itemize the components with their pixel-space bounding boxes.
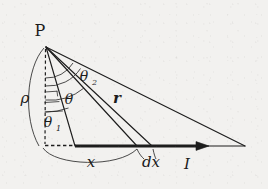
diagram-canvas: P ρ θ θ 1 θ 2 r x dx I <box>0 0 268 189</box>
ray-p-to-element-right <box>46 47 152 146</box>
label-theta-2-subscript: 2 <box>91 78 97 87</box>
label-theta-1: θ 1 <box>44 114 61 133</box>
tick-mark-middle <box>45 102 59 103</box>
tick-mark-upper <box>45 91 58 96</box>
label-current: I <box>183 155 191 173</box>
label-theta-2-base: θ <box>80 68 89 84</box>
label-r: r <box>113 89 122 107</box>
rho-measure-arc <box>29 48 44 146</box>
tick-mark-lower <box>45 111 63 112</box>
physics-diagram-figure: P ρ θ θ 1 θ 2 r x dx I <box>0 0 268 189</box>
label-dx: dx <box>142 153 161 171</box>
label-x: x <box>87 153 96 171</box>
angle-arc-inner <box>45 63 73 78</box>
label-point-p: P <box>35 21 46 40</box>
current-arrowhead <box>196 142 209 151</box>
label-theta-1-subscript: 1 <box>56 124 61 133</box>
angle-arc-theta-2 <box>45 69 80 87</box>
label-theta: θ <box>65 91 74 107</box>
label-theta-1-base: θ <box>44 114 53 130</box>
hypotenuse-line-p-to-far-end <box>46 47 245 146</box>
label-rho: ρ <box>20 89 30 107</box>
